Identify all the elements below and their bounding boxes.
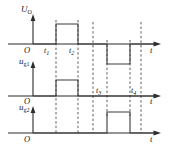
time-marker-t3-label: t3 — [96, 86, 101, 96]
panel-ug2: ug2 O t — [8, 102, 161, 144]
ug2-origin-label: O — [24, 134, 30, 144]
uo-axis-label: UO — [21, 4, 33, 15]
ug1-t-axis-label: t — [150, 96, 153, 106]
ug2-y-axis-arrow-icon — [31, 106, 36, 113]
ug1-origin-label: O — [24, 96, 30, 106]
ug1-axis-label: ug1 — [19, 56, 30, 67]
time-marker-t2-label: t2 — [69, 46, 74, 56]
dashed-guide-lines — [56, 20, 141, 133]
ug1-y-axis-arrow-icon — [31, 61, 36, 68]
uo-t-axis-label: t — [150, 45, 153, 55]
uo-origin-label: O — [24, 45, 30, 55]
time-marker-t1-label: t1 — [44, 46, 49, 56]
ug1-waveform-trace — [33, 80, 155, 96]
waveform-figure: UO O t t1 t2 ug1 O t — [0, 0, 169, 147]
panel-uo: UO O t t1 t2 — [8, 4, 161, 64]
uo-waveform-trace — [33, 24, 155, 64]
waveform-diagram: UO O t t1 t2 ug1 O t — [0, 0, 169, 147]
time-marker-t4-label: t4 — [131, 86, 136, 96]
ug2-t-axis-label: t — [150, 134, 153, 144]
ug2-waveform-trace — [33, 112, 155, 133]
panel-ug1: ug1 O t t3 t4 — [8, 56, 161, 106]
